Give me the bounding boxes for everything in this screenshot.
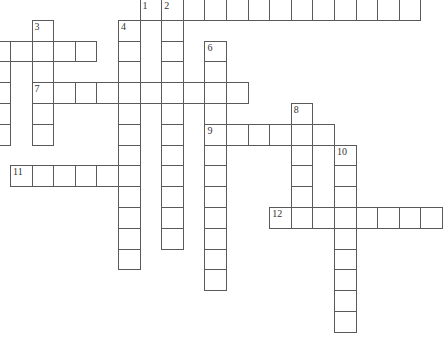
crossword-cell[interactable] bbox=[118, 82, 141, 104]
crossword-cell[interactable]: 1 bbox=[140, 0, 163, 21]
crossword-cell[interactable] bbox=[75, 41, 98, 63]
crossword-cell[interactable] bbox=[204, 186, 227, 208]
crossword-cell[interactable] bbox=[399, 207, 422, 229]
crossword-cell[interactable] bbox=[204, 82, 227, 104]
crossword-cell[interactable] bbox=[248, 124, 271, 146]
crossword-cell[interactable] bbox=[118, 165, 141, 187]
crossword-cell[interactable] bbox=[32, 61, 55, 83]
crossword-cell[interactable] bbox=[334, 249, 357, 271]
crossword-cell[interactable] bbox=[226, 124, 249, 146]
crossword-cell[interactable] bbox=[118, 249, 141, 271]
crossword-cell[interactable]: 7 bbox=[32, 82, 55, 104]
crossword-cell[interactable] bbox=[0, 103, 11, 125]
crossword-cell[interactable] bbox=[0, 124, 11, 146]
crossword-cell[interactable] bbox=[420, 207, 443, 229]
crossword-cell[interactable] bbox=[96, 82, 119, 104]
crossword-cell[interactable] bbox=[118, 186, 141, 208]
crossword-cell[interactable] bbox=[356, 0, 379, 21]
crossword-cell[interactable] bbox=[75, 82, 98, 104]
clue-number: 7 bbox=[35, 83, 40, 94]
crossword-cell[interactable] bbox=[118, 124, 141, 146]
crossword-cell[interactable] bbox=[161, 228, 184, 250]
crossword-cell[interactable] bbox=[291, 207, 314, 229]
crossword-cell[interactable]: 4 bbox=[118, 20, 141, 42]
crossword-cell[interactable] bbox=[291, 186, 314, 208]
crossword-cell[interactable] bbox=[161, 20, 184, 42]
crossword-cell[interactable] bbox=[53, 82, 76, 104]
crossword-cell[interactable]: 6 bbox=[204, 41, 227, 63]
crossword-cell[interactable] bbox=[0, 61, 11, 83]
crossword-cell[interactable] bbox=[0, 82, 11, 104]
crossword-cell[interactable] bbox=[118, 145, 141, 167]
crossword-cell[interactable] bbox=[96, 165, 119, 187]
crossword-cell[interactable] bbox=[183, 82, 206, 104]
crossword-cell[interactable] bbox=[75, 165, 98, 187]
crossword-cell[interactable] bbox=[118, 41, 141, 63]
crossword-cell[interactable] bbox=[204, 103, 227, 125]
crossword-cell[interactable] bbox=[204, 228, 227, 250]
crossword-cell[interactable] bbox=[161, 82, 184, 104]
crossword-cell[interactable] bbox=[118, 61, 141, 83]
crossword-cell[interactable] bbox=[204, 61, 227, 83]
crossword-cell[interactable] bbox=[161, 165, 184, 187]
crossword-cell[interactable] bbox=[53, 165, 76, 187]
crossword-cell[interactable] bbox=[269, 0, 292, 21]
crossword-cell[interactable] bbox=[377, 207, 400, 229]
crossword-cell[interactable] bbox=[118, 228, 141, 250]
crossword-cell[interactable] bbox=[118, 207, 141, 229]
crossword-cell[interactable] bbox=[204, 165, 227, 187]
crossword-cell[interactable] bbox=[226, 82, 249, 104]
crossword-cell[interactable] bbox=[334, 269, 357, 291]
crossword-cell[interactable] bbox=[291, 0, 314, 21]
crossword-cell[interactable] bbox=[312, 0, 335, 21]
crossword-cell[interactable]: 3 bbox=[32, 20, 55, 42]
crossword-cell[interactable]: 2 bbox=[161, 0, 184, 21]
crossword-cell[interactable] bbox=[312, 207, 335, 229]
crossword-cell[interactable] bbox=[32, 103, 55, 125]
crossword-cell[interactable] bbox=[291, 165, 314, 187]
crossword-cell[interactable] bbox=[204, 207, 227, 229]
crossword-cell[interactable] bbox=[183, 0, 206, 21]
crossword-cell[interactable] bbox=[377, 0, 400, 21]
crossword-cell[interactable] bbox=[161, 103, 184, 125]
crossword-cell[interactable]: 9 bbox=[204, 124, 227, 146]
crossword-cell[interactable] bbox=[399, 0, 422, 21]
crossword-cell[interactable] bbox=[10, 41, 33, 63]
crossword-cell[interactable] bbox=[204, 249, 227, 271]
crossword-cell[interactable] bbox=[161, 61, 184, 83]
crossword-cell[interactable] bbox=[204, 0, 227, 21]
crossword-cell[interactable]: 12 bbox=[269, 207, 292, 229]
crossword-cell[interactable] bbox=[161, 145, 184, 167]
crossword-cell[interactable] bbox=[291, 124, 314, 146]
crossword-cell[interactable] bbox=[118, 103, 141, 125]
crossword-cell[interactable]: 8 bbox=[291, 103, 314, 125]
crossword-cell[interactable] bbox=[32, 124, 55, 146]
crossword-cell[interactable]: 11 bbox=[10, 165, 33, 187]
crossword-cell[interactable] bbox=[334, 186, 357, 208]
crossword-cell[interactable] bbox=[140, 82, 163, 104]
crossword-cell[interactable] bbox=[334, 228, 357, 250]
crossword-cell[interactable] bbox=[269, 124, 292, 146]
crossword-cell[interactable] bbox=[334, 311, 357, 333]
crossword-cell[interactable] bbox=[334, 165, 357, 187]
crossword-cell[interactable] bbox=[356, 207, 379, 229]
crossword-cell[interactable] bbox=[161, 124, 184, 146]
crossword-cell[interactable] bbox=[32, 41, 55, 63]
crossword-cell[interactable] bbox=[161, 186, 184, 208]
crossword-cell[interactable] bbox=[32, 165, 55, 187]
crossword-cell[interactable] bbox=[291, 145, 314, 167]
crossword-cell[interactable] bbox=[312, 124, 335, 146]
crossword-cell[interactable]: 10 bbox=[334, 145, 357, 167]
clue-number: 9 bbox=[207, 125, 212, 136]
crossword-cell[interactable] bbox=[248, 0, 271, 21]
crossword-cell[interactable] bbox=[334, 0, 357, 21]
crossword-cell[interactable] bbox=[334, 207, 357, 229]
crossword-cell[interactable] bbox=[204, 269, 227, 291]
crossword-cell[interactable] bbox=[53, 41, 76, 63]
crossword-cell[interactable] bbox=[226, 0, 249, 21]
crossword-cell[interactable] bbox=[161, 207, 184, 229]
crossword-cell[interactable] bbox=[161, 41, 184, 63]
crossword-cell[interactable] bbox=[334, 290, 357, 312]
crossword-cell[interactable] bbox=[204, 145, 227, 167]
